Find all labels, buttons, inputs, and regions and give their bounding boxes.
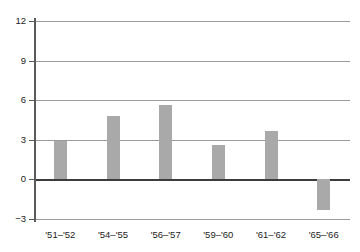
x-tick-label: '51–'52 [45,230,75,240]
x-tick-label: '56–'57 [151,230,181,240]
x-axis: '51–'52'54–'55'56–'57'59–'60'61–'62'65–'… [0,0,360,252]
x-tick-label: '59–'60 [203,230,233,240]
x-tick-label: '54–'55 [98,230,128,240]
x-tick-label: '65–'66 [309,230,339,240]
bar-chart: 129630−3 '51–'52'54–'55'56–'57'59–'60'61… [0,0,360,252]
x-tick-label: '61–'62 [256,230,286,240]
